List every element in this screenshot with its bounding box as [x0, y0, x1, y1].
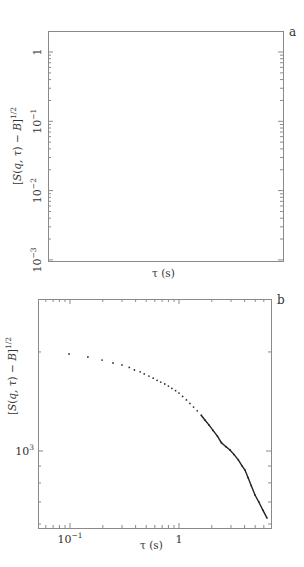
- y-tick-label: 10−3: [29, 247, 44, 272]
- data-point: [148, 375, 150, 377]
- chart-a-y-axis-label: [S(q, τ) − B]1/2: [9, 107, 23, 185]
- figure: 10−610−510−410−3 110−110−210−3 a τ (s) […: [0, 0, 304, 567]
- x-tick-label: 1: [176, 533, 183, 546]
- chart-b-y-tick-labels: 103: [15, 443, 34, 458]
- data-point: [175, 390, 177, 392]
- chart-a-ticks: [48, 52, 283, 260]
- chart-a-panel-label: a: [289, 25, 296, 39]
- svg-text:[S(q, τ) − B]1/2: [S(q, τ) − B]1/2: [4, 337, 18, 415]
- data-point: [101, 359, 103, 361]
- data-point: [164, 383, 166, 385]
- chart-a-y-tick-labels: 110−110−210−3: [29, 49, 44, 273]
- y-tick-label: 103: [15, 443, 34, 458]
- data-point: [160, 381, 162, 383]
- chart-a-x-axis-label: τ (s): [152, 267, 175, 279]
- chart-b-frame: [39, 300, 272, 529]
- data-point: [68, 353, 70, 355]
- svg-text:10−3: 10−3: [29, 247, 44, 272]
- data-point: [128, 367, 130, 369]
- chart-a: 10−610−510−410−3 110−110−210−3 a τ (s) […: [0, 25, 296, 279]
- chart-b-ticks: [38, 299, 271, 528]
- data-point: [87, 356, 89, 358]
- data-point: [193, 406, 195, 408]
- chart-b-panel-label: b: [277, 293, 285, 307]
- chart-b-y-axis-label: [S(q, τ) − B]1/2: [4, 337, 18, 415]
- svg-text:1: 1: [31, 49, 44, 56]
- svg-text:10−1: 10−1: [29, 109, 44, 134]
- data-point: [121, 364, 123, 366]
- chart-b-x-axis-label: τ (s): [140, 539, 163, 551]
- data-point: [196, 410, 198, 412]
- data-point: [134, 369, 136, 371]
- svg-text:10−2: 10−2: [29, 178, 44, 203]
- chart-b-dense-segment: [201, 415, 267, 518]
- data-point: [189, 403, 191, 405]
- data-point: [156, 379, 158, 381]
- y-tick-label: 1: [31, 49, 44, 56]
- data-point: [171, 387, 173, 389]
- y-tick-label: 10−1: [29, 109, 44, 134]
- chart-b: 10−11 103 b τ (s) [S(q, τ) − B]1/2: [4, 293, 285, 551]
- data-point: [168, 385, 170, 387]
- data-point: [139, 371, 141, 373]
- chart-a-frame: [49, 32, 284, 262]
- x-tick-label: 10−1: [57, 531, 82, 546]
- data-point: [178, 392, 180, 394]
- data-point: [182, 396, 184, 398]
- chart-b-x-tick-labels: 10−11: [57, 531, 182, 546]
- y-tick-label: 10−2: [29, 178, 44, 203]
- chart-b-series: [68, 353, 268, 519]
- data-point: [186, 399, 188, 401]
- data-point: [152, 377, 154, 379]
- data-point: [143, 373, 145, 375]
- svg-text:[S(q, τ) − B]1/2: [S(q, τ) − B]1/2: [9, 107, 23, 185]
- data-point: [112, 362, 114, 364]
